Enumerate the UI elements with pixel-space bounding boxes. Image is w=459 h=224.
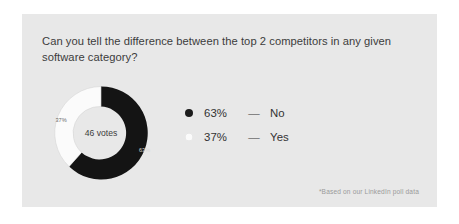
legend-marker-dark-circle-icon <box>185 109 193 117</box>
legend-separator-no: — <box>244 107 264 119</box>
poll-card: Can you tell the difference between the … <box>22 14 437 207</box>
legend-item-no: 63% — No <box>185 106 289 120</box>
legend-label-yes: Yes <box>270 131 289 143</box>
legend-percent-yes: 37% <box>204 131 244 143</box>
donut-slice-label-yes: 37% <box>56 117 67 123</box>
donut-slice-label-no: 63% <box>139 147 150 153</box>
page-title: Can you tell the difference between the … <box>42 34 392 65</box>
legend-separator-yes: — <box>244 131 264 143</box>
poll-result-graphic: Can you tell the difference between the … <box>0 0 459 224</box>
donut-slice-yes <box>55 87 101 167</box>
legend-item-yes: 37% — Yes <box>185 130 289 144</box>
donut-chart: 37% 63% 46 votes <box>42 86 160 180</box>
legend-label-no: No <box>270 107 285 119</box>
legend-percent-no: 63% <box>204 107 244 119</box>
donut-center-label: 46 votes <box>85 128 118 138</box>
chart-legend: 63% — No 37% — Yes <box>185 106 289 144</box>
chart-footnote: *Based on our LinkedIn poll data <box>319 188 419 195</box>
donut-chart-svg: 37% 63% 46 votes <box>42 86 160 180</box>
legend-marker-light-circle-icon <box>185 133 193 141</box>
